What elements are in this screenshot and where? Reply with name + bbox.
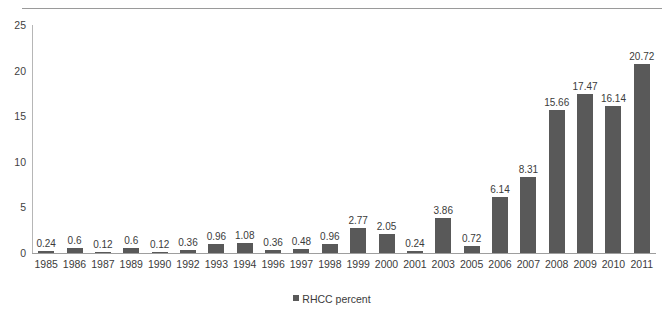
bar-slot: 0.36 — [260, 25, 286, 253]
x-axis-tick-labels: 1985198619871989199019921993199419961997… — [32, 258, 656, 274]
bar[interactable] — [577, 94, 593, 253]
y-axis-tick-labels: 0510152025 — [0, 0, 28, 321]
bar-chart: 0510152025 0.240.60.120.60.120.360.961.0… — [0, 0, 664, 321]
bar-slot: 0.6 — [118, 25, 144, 253]
bar-value-label: 0.24 — [396, 238, 434, 249]
chart-legend: RHCC percent — [0, 292, 664, 305]
bar-value-label: 20.72 — [623, 51, 661, 62]
bar[interactable] — [549, 110, 565, 253]
bar-value-label: 8.31 — [509, 164, 547, 175]
x-axis-tick-label: 2011 — [625, 258, 659, 271]
bar-slot: 0.72 — [459, 25, 485, 253]
bar-slot: 1.08 — [232, 25, 258, 253]
bar[interactable] — [407, 251, 423, 253]
bar[interactable] — [322, 244, 338, 253]
bar[interactable] — [123, 248, 139, 253]
y-axis-tick-label: 25 — [0, 20, 26, 30]
bar-slot: 0.6 — [62, 25, 88, 253]
plot-area: 0.240.60.120.60.120.360.961.080.360.480.… — [32, 25, 656, 253]
x-axis-line — [32, 253, 656, 254]
bar-slot: 2.05 — [374, 25, 400, 253]
bar-slot: 2.77 — [345, 25, 371, 253]
bar-slot: 20.72 — [629, 25, 655, 253]
bar-value-label: 0.96 — [311, 231, 349, 242]
bar[interactable] — [379, 234, 395, 253]
bar-value-label: 0.72 — [453, 233, 491, 244]
bar-value-label: 2.05 — [368, 221, 406, 232]
bar[interactable] — [180, 250, 196, 253]
bar-slot: 0.36 — [175, 25, 201, 253]
bar-slot: 0.12 — [147, 25, 173, 253]
bar-slot: 6.14 — [487, 25, 513, 253]
bar[interactable] — [605, 106, 621, 253]
bar-value-label: 6.14 — [481, 184, 519, 195]
legend-swatch-icon — [293, 295, 299, 301]
bar[interactable] — [208, 244, 224, 253]
bar-slot: 0.24 — [402, 25, 428, 253]
bar-value-label: 3.86 — [424, 205, 462, 216]
bar[interactable] — [265, 250, 281, 253]
bar-slot: 0.48 — [288, 25, 314, 253]
bar-slot: 15.66 — [544, 25, 570, 253]
bar-value-label: 15.66 — [538, 97, 576, 108]
bar[interactable] — [67, 248, 83, 253]
bar[interactable] — [520, 177, 536, 253]
legend-item[interactable]: RHCC percent — [293, 292, 370, 305]
bar[interactable] — [152, 252, 168, 254]
bar[interactable] — [634, 64, 650, 253]
y-axis-tick-label: 15 — [0, 111, 26, 121]
bar[interactable] — [350, 228, 366, 253]
bar-slot: 0.96 — [203, 25, 229, 253]
legend-label: RHCC percent — [302, 293, 370, 305]
bar-slot: 0.24 — [33, 25, 59, 253]
y-axis-tick-label: 0 — [0, 248, 26, 258]
y-axis-tick-label: 10 — [0, 157, 26, 167]
bar[interactable] — [237, 243, 253, 253]
bar-slot: 3.86 — [430, 25, 456, 253]
bar-slot: 8.31 — [515, 25, 541, 253]
bar-slot: 0.12 — [90, 25, 116, 253]
bar-value-label: 16.14 — [594, 93, 632, 104]
y-axis-tick-label: 20 — [0, 66, 26, 76]
bar[interactable] — [293, 249, 309, 253]
y-axis-tick-label: 5 — [0, 202, 26, 212]
bar-slot: 17.47 — [572, 25, 598, 253]
bar[interactable] — [464, 246, 480, 253]
bar[interactable] — [435, 218, 451, 253]
bar-value-label: 17.47 — [566, 81, 604, 92]
bar[interactable] — [492, 197, 508, 253]
bar[interactable] — [38, 251, 54, 253]
bar[interactable] — [95, 252, 111, 254]
